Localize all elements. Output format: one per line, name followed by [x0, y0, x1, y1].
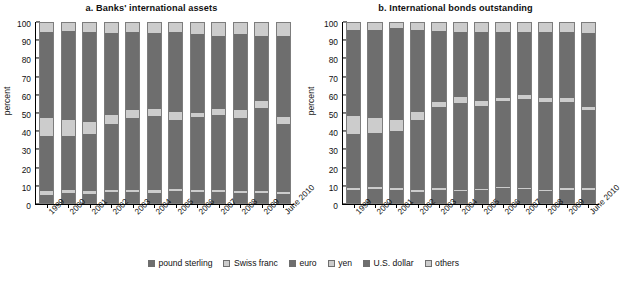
bar-segment-others: [234, 23, 247, 34]
stacked-bar[interactable]: [453, 22, 468, 204]
legend-item: Swiss franc: [223, 258, 277, 268]
bar-segment-euro: [126, 118, 139, 190]
bar-segment-others: [277, 23, 290, 36]
bar-slot: [492, 22, 513, 204]
panel-a-x-labels: 1999200020012002200320042005200620072008…: [36, 204, 294, 254]
legend-label: others: [435, 258, 459, 268]
legend-swatch-pound-sterling: [148, 260, 155, 267]
y-tick-label: 20: [329, 165, 343, 175]
stacked-bar[interactable]: [233, 22, 248, 204]
stacked-bar[interactable]: [104, 22, 119, 204]
bar-segment-others: [105, 23, 118, 33]
bar-segment-euro: [148, 116, 161, 191]
bar-slot: [514, 22, 535, 204]
bar-segment-u-s-dollar: [62, 31, 75, 120]
bar-segment-yen: [105, 115, 118, 124]
stacked-bar[interactable]: [276, 22, 291, 204]
stacked-bar[interactable]: [517, 22, 532, 204]
y-tick-label: 10: [22, 183, 36, 193]
stacked-bar[interactable]: [581, 22, 596, 204]
bar-segment-euro: [277, 124, 290, 192]
stacked-bar[interactable]: [254, 22, 269, 204]
y-tick-label: 30: [329, 146, 343, 156]
panel-b-plot-area: 0102030405060708090100 19992000200120022…: [342, 22, 599, 205]
y-tick-70: 70: [329, 68, 343, 86]
legend-item: yen: [328, 258, 352, 268]
bar-segment-u-s-dollar: [518, 32, 531, 95]
bar-segment-euro: [475, 106, 488, 189]
bar-segment-yen: [83, 122, 96, 134]
bar-segment-u-s-dollar: [390, 28, 403, 121]
bar-segment-yen: [169, 112, 182, 120]
chart-panel-b: b. International bonds outstanding perce…: [304, 0, 607, 252]
stacked-bar[interactable]: [431, 22, 446, 204]
y-tick-100: 100: [17, 13, 36, 31]
stacked-bar[interactable]: [211, 22, 226, 204]
bar-segment-u-s-dollar: [148, 33, 161, 109]
bar-slot: [343, 22, 364, 204]
bar-segment-euro: [518, 99, 531, 188]
bar-segment-u-s-dollar: [40, 32, 53, 118]
bar-segment-euro: [368, 133, 381, 187]
panel-a-y-axis-label: percent: [2, 71, 12, 131]
y-tick-label: 10: [329, 183, 343, 193]
bar-segment-others: [191, 23, 204, 34]
bar-segment-others: [368, 23, 381, 30]
bar-segment-yen: [234, 110, 247, 118]
bar-segment-euro: [234, 118, 247, 191]
stacked-bar[interactable]: [559, 22, 574, 204]
bar-segment-others: [411, 23, 424, 30]
y-tick-40: 40: [22, 122, 36, 140]
stacked-bar[interactable]: [168, 22, 183, 204]
legend-swatch-us-dollar: [363, 260, 370, 267]
bar-segment-euro: [105, 124, 118, 189]
bar-segment-u-s-dollar: [191, 34, 204, 113]
bar-slot: [101, 22, 123, 204]
y-tick-label: 90: [22, 37, 36, 47]
bar-segment-others: [582, 23, 595, 33]
stacked-bar[interactable]: [474, 22, 489, 204]
y-tick-label: 0: [333, 201, 343, 211]
bar-slot: [251, 22, 273, 204]
bar-segment-u-s-dollar: [582, 33, 595, 107]
bar-slot: [450, 22, 471, 204]
bar-segment-yen: [347, 116, 360, 134]
stacked-bar[interactable]: [538, 22, 553, 204]
stacked-bar[interactable]: [82, 22, 97, 204]
bar-segment-others: [40, 23, 53, 32]
stacked-bar[interactable]: [367, 22, 382, 204]
y-tick-label: 100: [17, 19, 36, 29]
stacked-bar[interactable]: [346, 22, 361, 204]
legend-swatch-euro: [289, 260, 296, 267]
bar-segment-euro: [169, 120, 182, 188]
bar-segment-others: [62, 23, 75, 31]
y-tick-0: 0: [333, 195, 343, 213]
bar-slot: [144, 22, 166, 204]
bar-segment-euro: [255, 108, 268, 192]
stacked-bar[interactable]: [125, 22, 140, 204]
stacked-bar[interactable]: [39, 22, 54, 204]
stacked-bar[interactable]: [147, 22, 162, 204]
stacked-bar[interactable]: [389, 22, 404, 204]
legend-item: U.S. dollar: [363, 258, 414, 268]
y-tick-30: 30: [22, 140, 36, 158]
y-tick-50: 50: [329, 104, 343, 122]
bar-segment-others: [454, 23, 467, 32]
bar-segment-euro: [411, 120, 424, 190]
y-tick-80: 80: [329, 49, 343, 67]
y-tick-60: 60: [22, 86, 36, 104]
stacked-bar[interactable]: [410, 22, 425, 204]
y-tick-10: 10: [22, 177, 36, 195]
bar-segment-yen: [40, 118, 53, 135]
bar-slot: [386, 22, 407, 204]
bar-slot: [471, 22, 492, 204]
stacked-bar[interactable]: [190, 22, 205, 204]
bar-segment-euro: [496, 101, 509, 187]
legend-label: Swiss franc: [234, 258, 278, 268]
panel-b-title: b. International bonds outstanding: [304, 3, 607, 13]
bar-segment-u-s-dollar: [83, 32, 96, 122]
stacked-bar[interactable]: [495, 22, 510, 204]
stacked-bar[interactable]: [61, 22, 76, 204]
y-tick-label: 50: [329, 110, 343, 120]
y-tick-label: 60: [329, 92, 343, 102]
